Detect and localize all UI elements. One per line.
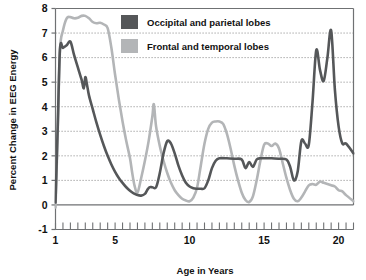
chart-canvas: -1012345678 15101520 Occipital and parie… bbox=[0, 0, 366, 280]
x-tick-label-20: 20 bbox=[333, 234, 345, 246]
x-tick-label-15: 15 bbox=[258, 234, 270, 246]
x-minor-ticks bbox=[56, 223, 354, 230]
y-tick-label-6: 6 bbox=[42, 51, 48, 63]
legend-label-occipital-parietal: Occipital and parietal lobes bbox=[147, 17, 271, 28]
x-tick-label-10: 10 bbox=[184, 234, 196, 246]
x-axis-title: Age in Years bbox=[177, 265, 234, 276]
y-tick-label-3: 3 bbox=[42, 125, 48, 137]
eeg-energy-chart: -1012345678 15101520 Occipital and parie… bbox=[0, 0, 366, 280]
y-tick-label-1: 1 bbox=[42, 174, 48, 186]
legend-swatch-occipital-parietal bbox=[121, 15, 138, 29]
legend-label-frontal-temporal: Frontal and temporal lobes bbox=[147, 41, 269, 52]
y-tick-label--1: -1 bbox=[38, 223, 47, 235]
y-tick-label-8: 8 bbox=[42, 2, 48, 14]
y-tick-label-2: 2 bbox=[42, 150, 48, 162]
y-tick-label-4: 4 bbox=[42, 101, 48, 113]
x-tick-label-1: 1 bbox=[53, 234, 59, 246]
y-tick-label-0: 0 bbox=[42, 199, 48, 211]
legend-swatch-frontal-temporal bbox=[121, 39, 138, 53]
x-tick-label-5: 5 bbox=[112, 234, 118, 246]
y-axis-title: Percent Change in EEG Energy bbox=[7, 49, 18, 191]
y-tick-label-7: 7 bbox=[42, 27, 48, 39]
y-tick-label-5: 5 bbox=[42, 76, 48, 88]
